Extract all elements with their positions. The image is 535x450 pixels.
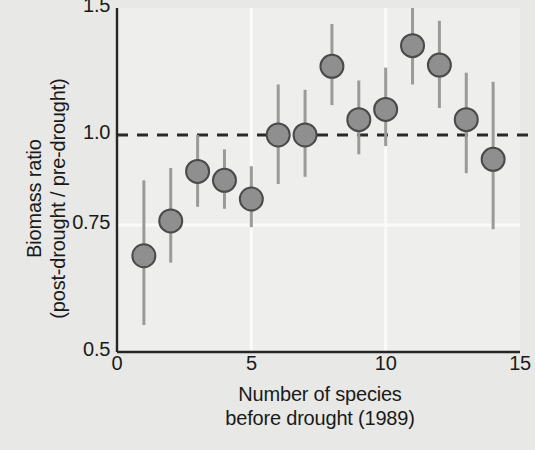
data-point[interactable] xyxy=(240,188,263,211)
x-tick-label: 15 xyxy=(500,352,535,375)
data-point[interactable] xyxy=(347,108,370,131)
data-point[interactable] xyxy=(482,148,505,171)
chart-figure: Biomass ratio (post-drought / pre-drough… xyxy=(0,0,535,450)
data-point[interactable] xyxy=(455,108,478,131)
x-tick-label: 10 xyxy=(366,352,406,375)
plot-background xyxy=(117,8,520,352)
data-point[interactable] xyxy=(428,54,451,77)
data-point[interactable] xyxy=(159,209,182,232)
data-point[interactable] xyxy=(320,55,343,78)
data-point[interactable] xyxy=(374,98,397,121)
data-point[interactable] xyxy=(401,34,424,57)
x-tick-label: 0 xyxy=(97,352,137,375)
data-point[interactable] xyxy=(294,123,317,146)
data-point[interactable] xyxy=(267,123,290,146)
x-tick-label: 5 xyxy=(231,352,271,375)
plot-area xyxy=(0,0,535,450)
data-point[interactable] xyxy=(132,244,155,267)
data-point[interactable] xyxy=(186,160,209,183)
data-point[interactable] xyxy=(213,169,236,192)
